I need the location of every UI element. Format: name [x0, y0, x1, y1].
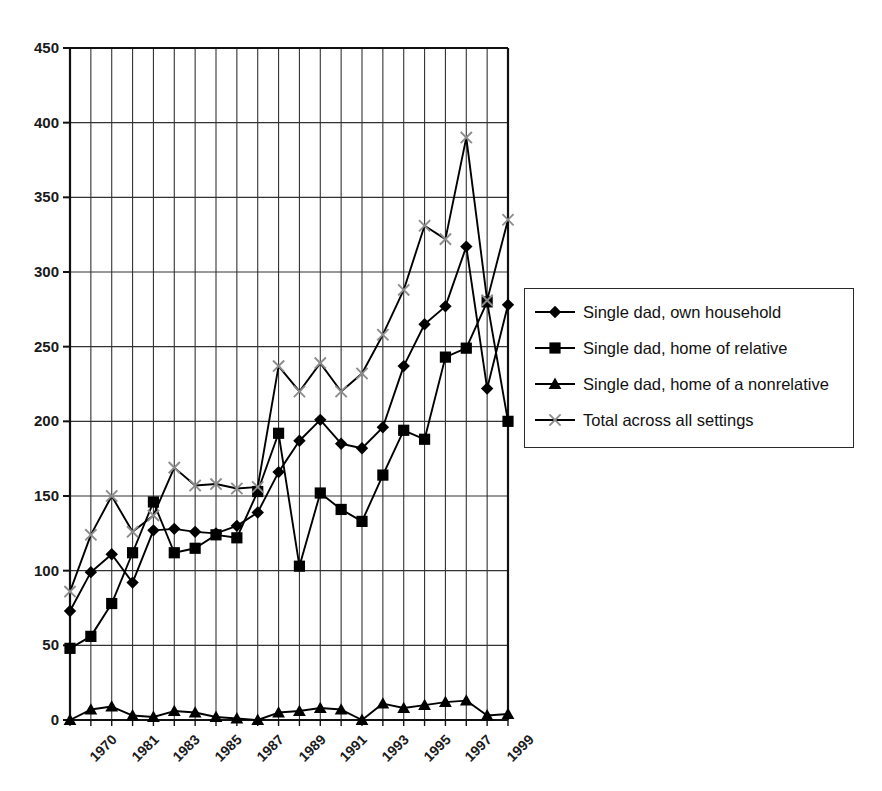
data-point-triangle [376, 697, 389, 708]
y-tick-label: 200 [19, 413, 59, 428]
legend-item-0: Single dad, own household [533, 299, 781, 325]
legend-marker-square-icon [533, 338, 577, 358]
legend-label: Single dad, home of a nonrelative [583, 375, 829, 394]
data-point-square [210, 529, 221, 540]
legend-marker-cross-icon [533, 410, 577, 430]
data-point-square [64, 643, 75, 654]
data-point-triangle [168, 705, 181, 716]
data-point-diamond [481, 382, 493, 394]
data-point-square [85, 631, 96, 642]
legend-item-3: Total across all settings [533, 407, 754, 433]
legend-marker-diamond-icon [533, 302, 577, 322]
data-point-square [106, 598, 117, 609]
data-point-diamond [549, 306, 561, 318]
y-tick-label: 150 [19, 488, 59, 503]
data-point-square [315, 487, 326, 498]
data-point-diamond [502, 299, 514, 311]
data-point-square [377, 469, 388, 480]
data-point-square [419, 434, 430, 445]
y-tick-label: 50 [19, 637, 59, 652]
data-point-triangle [502, 708, 515, 719]
series-line-3 [70, 138, 508, 592]
y-tick-label: 250 [19, 339, 59, 354]
y-tick-label: 0 [19, 712, 59, 727]
data-point-square [169, 547, 180, 558]
data-point-square [148, 496, 159, 507]
data-point-diamond [189, 526, 201, 538]
data-point-diamond [168, 523, 180, 535]
data-point-square [190, 543, 201, 554]
legend-label: Total across all settings [583, 411, 754, 430]
data-point-triangle [314, 702, 327, 713]
data-point-square [461, 343, 472, 354]
data-point-diamond [460, 240, 472, 252]
data-point-square [336, 504, 347, 515]
y-tick-label: 100 [19, 563, 59, 578]
data-point-square [440, 352, 451, 363]
legend-item-1: Single dad, home of relative [533, 335, 788, 361]
y-tick-label: 300 [19, 264, 59, 279]
data-point-diamond [147, 524, 159, 536]
data-point-diamond [64, 605, 76, 617]
data-point-diamond [272, 466, 284, 478]
data-point-square [231, 532, 242, 543]
legend-label: Single dad, home of relative [583, 339, 788, 358]
y-tick-label: 350 [19, 189, 59, 204]
chart-legend: Single dad, own householdSingle dad, hom… [524, 288, 854, 448]
data-point-triangle [460, 694, 473, 705]
data-point-square [502, 416, 513, 427]
data-point-triangle [126, 709, 139, 720]
legend-label: Single dad, own household [583, 303, 781, 322]
data-point-diamond [252, 506, 264, 518]
y-tick-label: 450 [19, 40, 59, 55]
data-point-diamond [398, 360, 410, 372]
data-point-square [294, 561, 305, 572]
data-point-square [482, 296, 493, 307]
data-point-square [356, 516, 367, 527]
legend-item-2: Single dad, home of a nonrelative [533, 371, 829, 397]
data-point-square [273, 428, 284, 439]
data-point-triangle [105, 700, 118, 711]
legend-marker-triangle-icon [533, 374, 577, 394]
data-point-square [549, 342, 560, 353]
data-point-square [127, 547, 138, 558]
y-tick-label: 400 [19, 115, 59, 130]
data-point-square [398, 425, 409, 436]
chart-figure: 050100150200250300350400450 197019811983… [0, 0, 882, 791]
